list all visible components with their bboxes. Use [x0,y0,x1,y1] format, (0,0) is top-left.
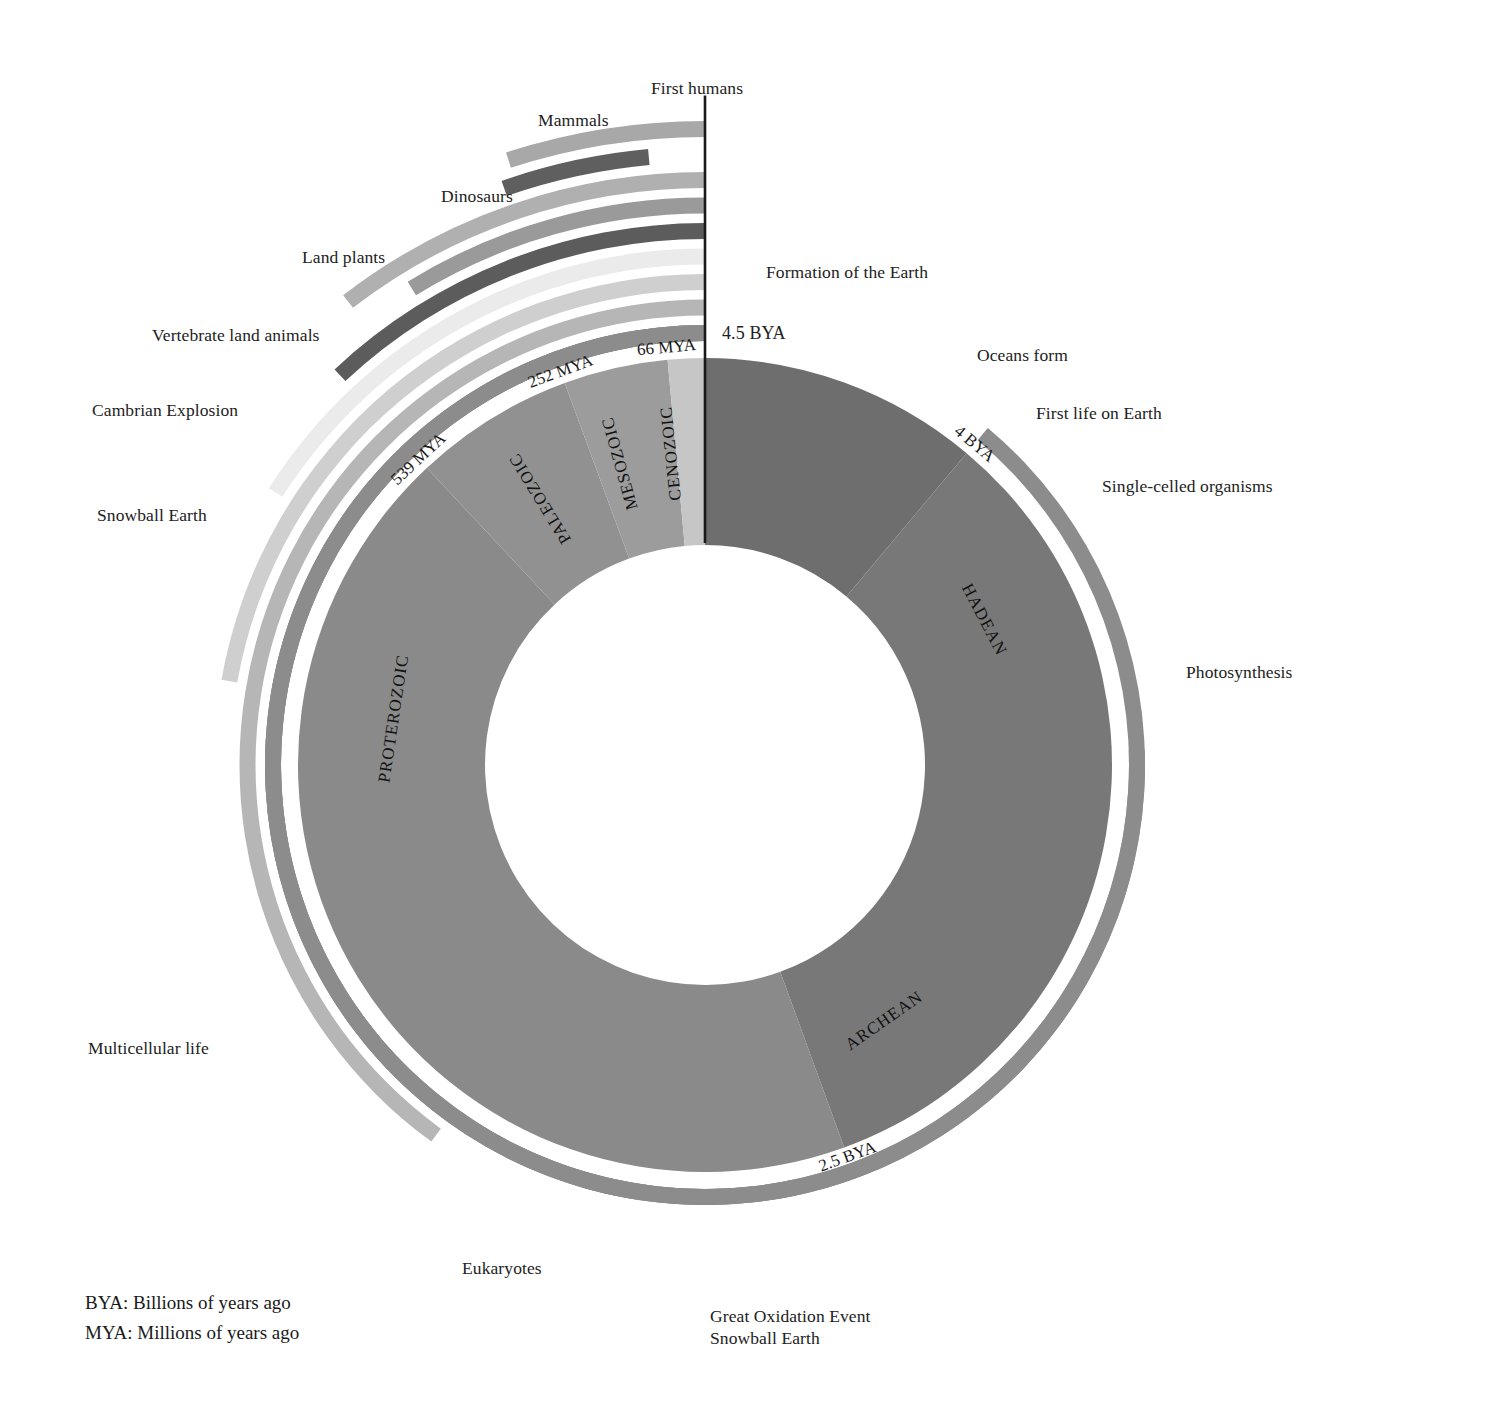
callout-formation-of-the-earth: Formation of the Earth [766,262,928,283]
tick-label-4-5-bya: 4.5 BYA [722,323,786,344]
callout-great-oxidation-event: Great Oxidation Event [710,1306,871,1327]
callout-eukaryotes: Eukaryotes [462,1258,542,1279]
callout-land-plants: Land plants [302,247,385,268]
callout-single-celled-organisms: Single-celled organisms [1102,476,1273,497]
callout-first-humans: First humans [651,78,743,99]
callout-dinosaurs: Dinosaurs [441,186,513,207]
timeline-chart: 4 BYA2.5 BYA539 MYA252 MYA66 MYA HADEANA… [0,0,1512,1407]
callout-vertebrate-land-animals: Vertebrate land animals [152,325,320,346]
callout-oceans-form: Oceans form [977,345,1068,366]
callout-first-life-on-earth: First life on Earth [1036,403,1162,424]
callout-snowball-earth-bottom: Snowball Earth [710,1328,820,1349]
callout-cambrian-explosion: Cambrian Explosion [92,400,238,421]
tick-label-66-mya: 66 MYA [636,335,697,359]
callout-multicellular-life: Multicellular life [88,1038,209,1059]
legend-bya: BYA: Billions of years ago [85,1288,291,1317]
legend-mya: MYA: Millions of years ago [85,1318,299,1347]
callout-mammals: Mammals [538,110,609,131]
geologic-timeline-svg: 4 BYA2.5 BYA539 MYA252 MYA66 MYA HADEANA… [0,0,1512,1407]
callout-photosynthesis: Photosynthesis [1186,662,1292,683]
callout-snowball-earth-left: Snowball Earth [97,505,207,526]
